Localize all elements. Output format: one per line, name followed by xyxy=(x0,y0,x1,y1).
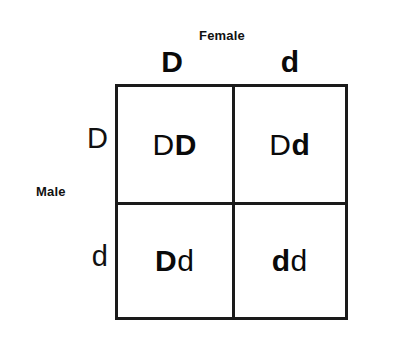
punnett-cell: dd xyxy=(232,202,346,317)
punnett-cell: Dd xyxy=(118,202,232,317)
male-allele-glyph: d xyxy=(272,244,291,277)
punnett-grid: DD Dd Dd dd xyxy=(115,84,348,320)
punnett-square-diagram: Female Male D d D d DD Dd Dd dd xyxy=(0,0,394,338)
male-allele-header-0: D xyxy=(62,122,108,154)
male-parent-label: Male xyxy=(36,184,100,199)
male-allele-glyph: D xyxy=(155,244,177,277)
genotype-text: DD xyxy=(153,129,197,161)
female-allele-glyph: d xyxy=(291,244,308,277)
genotype-text: Dd xyxy=(155,245,194,277)
punnett-cell: Dd xyxy=(232,87,346,202)
genotype-text: dd xyxy=(272,245,308,277)
female-allele-header-1: d xyxy=(260,45,320,79)
female-parent-label: Female xyxy=(25,28,394,43)
female-allele-glyph: D xyxy=(175,128,197,161)
female-allele-header-0: D xyxy=(142,45,202,79)
male-allele-glyph: D xyxy=(269,128,291,161)
male-allele-glyph: D xyxy=(153,128,175,161)
female-allele-glyph: d xyxy=(291,128,310,161)
genotype-text: Dd xyxy=(269,129,310,161)
female-allele-glyph: d xyxy=(177,244,194,277)
punnett-cell: DD xyxy=(118,87,232,202)
male-allele-header-1: d xyxy=(62,240,108,272)
